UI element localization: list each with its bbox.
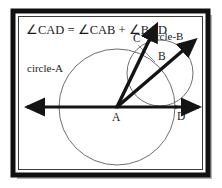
geometry-figure: ∠CAD = ∠CAB + ∠BAD circle-A circle-B A B… — [0, 0, 222, 188]
point-b-label: B — [158, 50, 166, 62]
circle-b-label: circle-B — [148, 30, 183, 42]
point-c-label: C — [133, 32, 141, 44]
point-a-label: A — [112, 111, 121, 123]
point-d-marker — [175, 106, 178, 109]
circle-a-label: circle-A — [27, 62, 63, 74]
angle-equation: ∠CAD = ∠CAB + ∠BAD — [26, 23, 167, 37]
point-a-marker — [116, 106, 119, 109]
point-d-label: D — [177, 110, 185, 122]
diagram-canvas: ∠CAD = ∠CAB + ∠BAD circle-A circle-B A B… — [0, 0, 222, 188]
